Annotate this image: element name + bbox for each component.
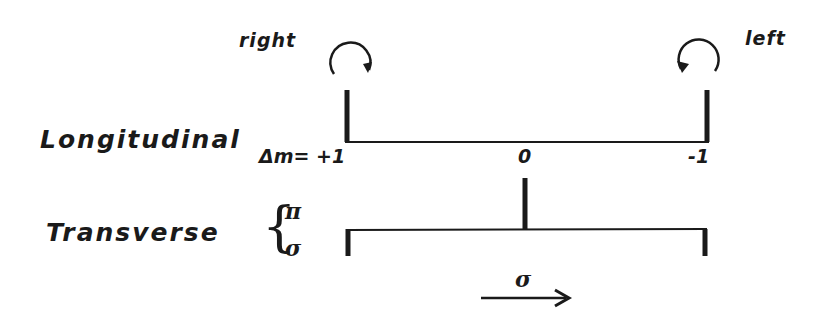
circular-arrow-right-icon — [330, 43, 372, 74]
delta-m-prefix: Δm= — [259, 145, 309, 167]
longitudinal-label: Longitudinal — [40, 127, 241, 152]
tick-plus-one: +1 — [316, 145, 345, 167]
delta-m-label: Δm= +1 — [259, 147, 345, 166]
sigma-label: σ — [285, 237, 301, 259]
transverse-lines — [347, 178, 707, 256]
tick-minus-one: -1 — [688, 147, 709, 166]
pi-label: π — [285, 200, 301, 222]
circular-arrow-left-icon — [677, 40, 719, 73]
diagram-canvas: right left Longitudinal Δm= +1 0 -1 Tran… — [0, 0, 822, 321]
right-label: right — [239, 31, 296, 50]
longitudinal-lines — [345, 90, 709, 142]
tick-zero: 0 — [518, 147, 531, 166]
arrow-sigma-label: σ — [515, 268, 531, 290]
transverse-label: Transverse — [46, 220, 220, 245]
sigma-arrow-icon — [481, 290, 569, 306]
left-label: left — [745, 29, 786, 48]
